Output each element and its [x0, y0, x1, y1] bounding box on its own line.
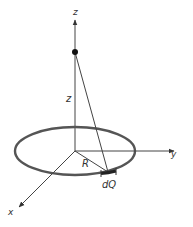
y-axis-label: y — [170, 149, 177, 159]
ring-diagram: z z y x R dQ — [0, 0, 193, 227]
radius-label: R — [82, 158, 89, 169]
charge-element-label: dQ — [102, 179, 116, 190]
z-axis-label: z — [72, 7, 78, 17]
field-point — [72, 49, 78, 55]
height-label: z — [65, 93, 72, 104]
x-axis-label: x — [7, 207, 14, 217]
x-axis — [19, 151, 75, 207]
